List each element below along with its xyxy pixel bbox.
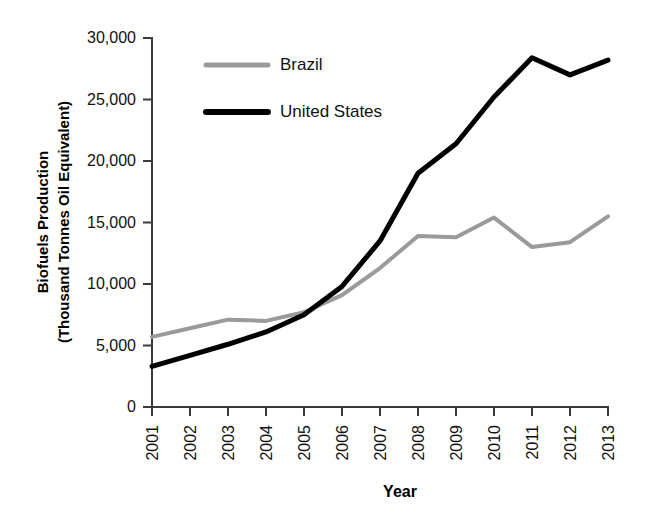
- y-tick-label-25000: 25,000: [87, 91, 136, 108]
- x-tick-label-2013: 2013: [600, 425, 617, 461]
- y-tick-label-5000: 5,000: [96, 337, 136, 354]
- x-axis-title: Year: [383, 483, 417, 500]
- x-tick-label-2009: 2009: [448, 425, 465, 461]
- chart-axes: [152, 38, 608, 407]
- x-tick-label-2012: 2012: [562, 425, 579, 461]
- y-axis-title-line2: (Thousand Tonnes Oil Equivalent): [55, 101, 72, 343]
- x-tick-label-2005: 2005: [296, 425, 313, 461]
- y-axis-ticks: [143, 38, 152, 407]
- y-tick-label-20000: 20,000: [87, 152, 136, 169]
- y-tick-label-15000: 15,000: [87, 214, 136, 231]
- x-tick-label-2008: 2008: [410, 425, 427, 461]
- y-tick-label-30000: 30,000: [87, 29, 136, 46]
- x-tick-label-2006: 2006: [334, 425, 351, 461]
- x-tick-label-2003: 2003: [220, 425, 237, 461]
- chart-legend: Brazil United States: [206, 55, 382, 121]
- x-tick-label-2004: 2004: [258, 425, 275, 461]
- x-axis-tick-labels: 2001200220032004200520062007200820092010…: [144, 425, 617, 461]
- y-axis-title-line1: Biofuels Production: [34, 151, 51, 294]
- x-tick-label-2002: 2002: [182, 425, 199, 461]
- legend-label-brazil: Brazil: [280, 55, 323, 74]
- legend-label-united-states: United States: [280, 102, 382, 121]
- y-axis-tick-labels: 05,00010,00015,00020,00025,00030,000: [87, 29, 136, 415]
- x-tick-label-2007: 2007: [372, 425, 389, 461]
- y-tick-label-10000: 10,000: [87, 275, 136, 292]
- x-tick-label-2010: 2010: [486, 425, 503, 461]
- series-line-brazil: [152, 216, 608, 337]
- biofuels-production-line-chart: 05,00010,00015,00020,00025,00030,000 200…: [0, 0, 668, 515]
- y-tick-label-0: 0: [127, 398, 136, 415]
- x-axis-ticks: [152, 407, 608, 416]
- x-tick-label-2011: 2011: [524, 425, 541, 460]
- x-tick-label-2001: 2001: [144, 425, 161, 461]
- chart-canvas: 05,00010,00015,00020,00025,00030,000 200…: [0, 0, 668, 515]
